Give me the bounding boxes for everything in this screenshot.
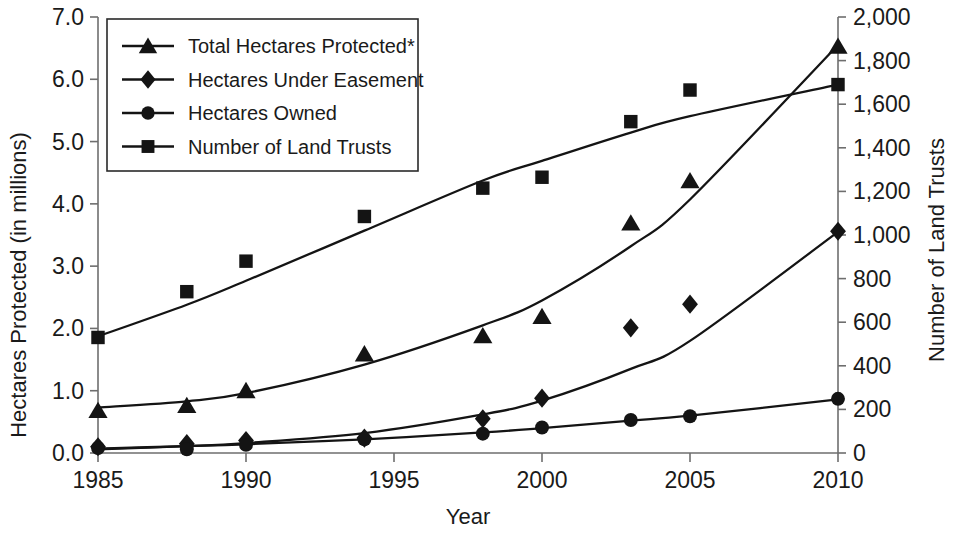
right-tick-label: 2,000 (853, 4, 911, 30)
left-tick-label: 4.0 (52, 191, 84, 217)
chart-container: 0.01.02.03.04.05.06.07.0 02004006008001,… (0, 0, 958, 537)
data-point-square (358, 210, 371, 223)
x-tick-label: 2000 (516, 467, 567, 493)
chart-legend: Total Hectares Protected*Hectares Under … (107, 19, 424, 171)
data-point-triangle (355, 345, 374, 361)
data-point-triangle (532, 308, 551, 324)
legend-item-label: Hectares Under Easement (188, 69, 424, 91)
x-tick-label: 2010 (812, 467, 863, 493)
land-trust-growth-chart: 0.01.02.03.04.05.06.07.0 02004006008001,… (0, 0, 958, 537)
right-tick-label: 800 (853, 266, 891, 292)
x-axis-tick-marks (98, 453, 838, 462)
data-point-circle (535, 421, 549, 435)
x-axis-tick-labels: 198519901995200020052010 (72, 467, 863, 493)
left-tick-label: 7.0 (52, 4, 84, 30)
right-tick-label: 1,400 (853, 135, 911, 161)
x-axis-title: Year (446, 504, 490, 529)
right-tick-label: 200 (853, 396, 891, 422)
data-point-square (91, 331, 104, 344)
left-axis-tick-marks (90, 17, 98, 453)
left-tick-label: 1.0 (52, 378, 84, 404)
data-point-circle (357, 432, 371, 446)
right-tick-label: 600 (853, 309, 891, 335)
legend-marker-square (142, 140, 155, 153)
data-point-triangle (621, 214, 640, 230)
right-tick-label: 0 (853, 440, 866, 466)
data-point-square (683, 83, 696, 96)
left-axis-tick-labels: 0.01.02.03.04.05.06.07.0 (52, 4, 84, 466)
data-point-circle (831, 392, 845, 406)
left-tick-label: 0.0 (52, 440, 84, 466)
x-tick-label: 2005 (664, 467, 715, 493)
left-tick-label: 3.0 (52, 253, 84, 279)
data-point-triangle (680, 172, 699, 188)
data-point-triangle (473, 327, 492, 343)
left-tick-label: 2.0 (52, 315, 84, 341)
right-tick-label: 400 (853, 353, 891, 379)
data-point-circle (91, 441, 105, 455)
right-tick-label: 1,200 (853, 178, 911, 204)
data-point-square (239, 254, 252, 267)
legend-item-label: Number of Land Trusts (188, 136, 391, 158)
data-point-diamond (534, 389, 550, 408)
data-point-square (180, 285, 193, 298)
right-axis-tick-labels: 02004006008001,0001,2001,4001,6001,8002,… (853, 4, 911, 466)
right-axis-title: Number of Land Trusts (924, 138, 949, 362)
data-point-circle (476, 427, 490, 441)
data-point-diamond (623, 318, 639, 337)
data-point-square (624, 115, 637, 128)
data-point-triangle (177, 397, 196, 413)
legend-marker-circle (141, 106, 154, 119)
data-point-diamond (682, 295, 698, 314)
data-point-triangle (88, 402, 107, 418)
data-point-triangle (828, 37, 847, 53)
series-line (98, 399, 838, 448)
data-point-diamond (830, 222, 846, 241)
x-tick-label: 1995 (368, 467, 419, 493)
left-tick-label: 5.0 (52, 129, 84, 155)
left-tick-label: 6.0 (52, 66, 84, 92)
right-tick-label: 1,600 (853, 91, 911, 117)
data-point-circle (683, 409, 697, 423)
legend-item-label: Hectares Owned (188, 102, 337, 124)
legend-item-label: Total Hectares Protected* (188, 35, 415, 57)
data-point-circle (624, 413, 638, 427)
x-tick-label: 1985 (72, 467, 123, 493)
right-tick-label: 1,800 (853, 48, 911, 74)
data-point-circle (180, 442, 194, 456)
data-point-triangle (236, 382, 255, 398)
right-tick-label: 1,000 (853, 222, 911, 248)
series-line (98, 232, 838, 449)
x-tick-label: 1990 (220, 467, 271, 493)
left-axis-title: Hectares Protected (in millions) (6, 132, 31, 438)
data-point-square (535, 171, 548, 184)
data-point-diamond (475, 409, 491, 428)
data-point-square (831, 78, 844, 91)
data-point-square (476, 181, 489, 194)
data-point-circle (239, 438, 253, 452)
